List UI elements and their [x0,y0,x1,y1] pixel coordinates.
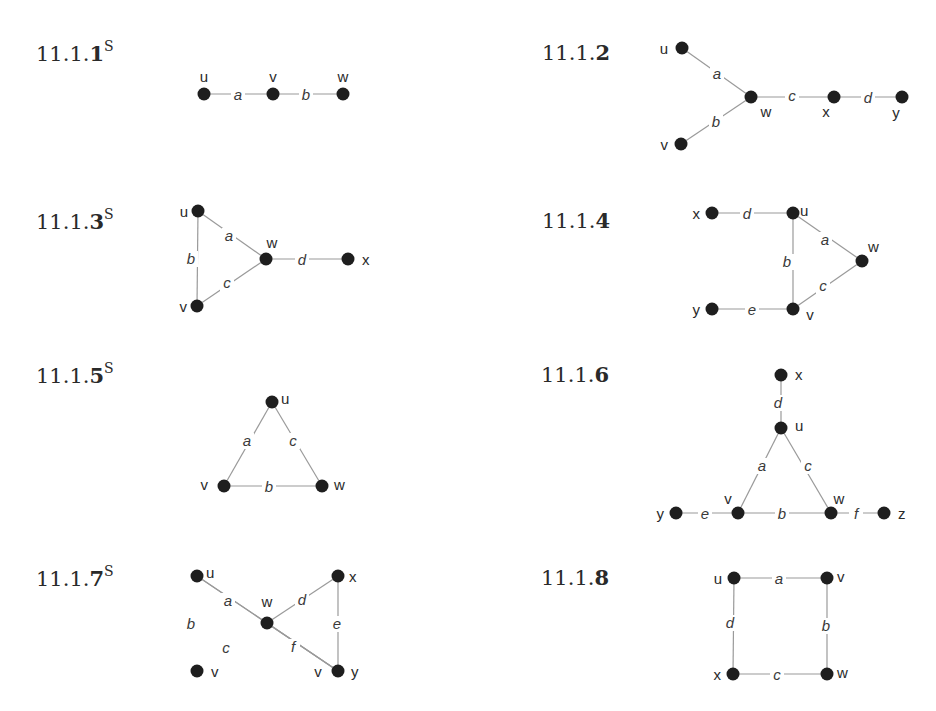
edge-label: b [187,615,195,632]
edge-label: c [819,277,827,294]
vertex-label: v [314,663,322,680]
vertex-dot [670,507,683,520]
edge-label: c [289,432,297,449]
vertex-label: w [333,476,345,493]
vertex-label: y [892,104,900,121]
vertex-dot [821,572,834,585]
vertex-dot [316,480,329,493]
edge-label: e [701,505,709,522]
vertex-label: x [795,366,803,383]
vertex-dot [706,207,719,220]
vertex-label: w [261,593,273,610]
vertex-label: v [180,298,188,315]
edge-label: b [302,86,310,103]
edge-label: c [773,666,781,683]
vertex-label: u [200,68,208,85]
edge-label: b [187,250,195,267]
edge-label: a [234,86,242,103]
vertex-dot [191,570,204,583]
vertex-dot [191,300,204,313]
vertex-dot [821,668,834,681]
vertex-label: v [201,476,209,493]
vertex-dot [732,507,745,520]
vertex-label: v [724,490,732,507]
vertex-label: w [867,238,879,255]
vertex-dot [878,507,891,520]
vertex-dot [342,253,355,266]
graph-figures: abuvwabcduwvxyabcduwvxdabcexuwvyacbuvwda… [0,0,936,711]
vertex-label: u [281,390,289,407]
edge-label: a [713,65,721,82]
vertex-dot [856,255,869,268]
vertex-dot [775,369,788,382]
edge-label: d [298,591,307,608]
vertex-dot [192,205,205,218]
edge-label: d [298,251,307,268]
vertex-label: y [693,301,701,318]
edge-label: d [864,89,873,106]
vertex-dot [266,396,279,409]
vertex-dot [218,480,231,493]
vertex-label: x [714,666,722,683]
edge-label: c [788,87,796,104]
vertex-dot [787,207,800,220]
graph-11-1-4: dabcexuwvy [693,202,880,323]
vertex-label: u [660,40,668,57]
edge-label: e [748,301,756,318]
edge-label: e [333,615,341,632]
vertex-label: w [760,103,772,120]
vertex-dot [198,88,211,101]
vertex-dot [745,91,758,104]
vertex-label: w [266,234,278,251]
graph-11-1-5: acbuvw [201,390,346,495]
edge-label: d [743,205,752,222]
vertex-dot [727,668,740,681]
vertex-dot [675,138,688,151]
edge-label: c [222,639,230,656]
edge [267,623,338,671]
graph-11-1-3: abcduwvx [180,203,371,315]
vertex-dot [267,88,280,101]
edge-label: b [783,253,791,270]
vertex-label: v [837,568,845,585]
vertex-label: x [349,568,357,585]
vertex-label: x [362,251,370,268]
vertex-dot [825,507,838,520]
vertex-label: u [714,570,722,587]
edge-label: a [224,592,232,609]
edge-label: b [822,617,830,634]
edge-label: c [223,274,231,291]
vertex-dot [896,91,909,104]
graph-11-1-2: abcduwvxy [660,40,909,153]
vertex-dot [332,570,345,583]
edge-label: a [243,432,251,449]
vertex-dot [191,665,204,678]
vertex-label: y [657,505,665,522]
vertex-label: u [800,202,808,219]
vertex-label: v [269,68,277,85]
vertex-dot [332,665,345,678]
vertex-dot [728,572,741,585]
vertex-label: u [795,417,803,434]
edge-label: b [265,478,273,495]
vertex-dot [706,303,719,316]
vertex-dot [828,91,841,104]
edge-label: b [778,505,786,522]
vertex-label: v [661,136,669,153]
vertex-label: v [806,306,814,323]
edge-label: d [774,394,783,411]
vertex-dot [260,253,273,266]
graph-11-1-6: dacbefxuvwyz [657,366,906,522]
vertex-label: w [836,664,848,681]
edge-label: a [225,227,233,244]
vertex-label: v [211,663,219,680]
vertex-label: u [180,203,188,220]
graph-11-1-1: abuvw [198,68,350,103]
vertex-label: z [898,505,906,522]
graph-11-1-8: abcduvxw [714,568,849,683]
edge-label: b [712,113,720,130]
edge-label: c [804,457,812,474]
vertex-label: w [337,68,349,85]
vertex-label: u [206,564,214,581]
graph-11-1-7: abcdefuwxvvy [184,564,359,680]
